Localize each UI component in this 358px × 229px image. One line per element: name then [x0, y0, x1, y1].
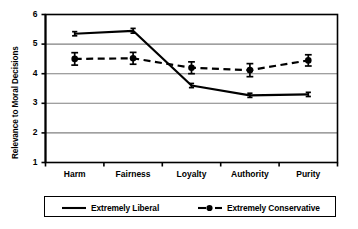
solid-line-swatch-icon: [61, 203, 87, 213]
plot-area: [0, 0, 358, 229]
legend-label-extremely-liberal: Extremely Liberal: [91, 203, 159, 213]
x-tick-label: Purity: [268, 169, 348, 179]
dashed-line-marker-swatch-icon: [197, 203, 223, 213]
y-tick-label: 5: [24, 38, 38, 48]
chart-legend: Extremely Liberal Extremely Conservative: [44, 196, 336, 217]
y-tick-label: 6: [24, 9, 38, 19]
y-tick-label: 2: [24, 127, 38, 137]
y-tick-label: 4: [24, 68, 38, 78]
moral-foundations-line-chart: Relevance to Moral Decisions Extremely L…: [0, 0, 358, 229]
y-tick-label: 1: [24, 157, 38, 167]
legend-item-extremely-liberal: Extremely Liberal: [61, 201, 159, 214]
y-tick-label: 3: [24, 97, 38, 107]
legend-item-extremely-conservative: Extremely Conservative: [197, 201, 320, 214]
legend-label-extremely-conservative: Extremely Conservative: [227, 203, 320, 213]
